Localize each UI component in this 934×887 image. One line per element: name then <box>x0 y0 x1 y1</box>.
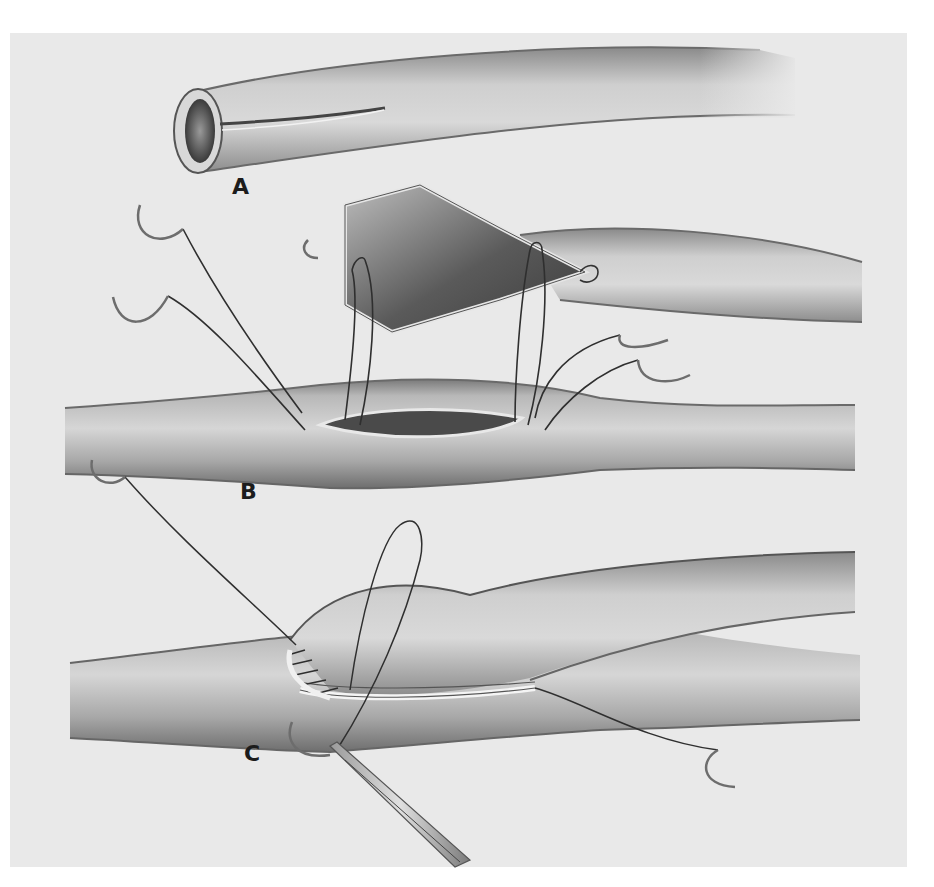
needle-icon <box>638 360 690 381</box>
vessel-lumen <box>185 99 215 163</box>
panel-c-anastomosis <box>70 552 860 752</box>
suture-left <box>125 477 296 645</box>
panel-label-b: B <box>240 481 257 503</box>
panel-b-recipient-vessel <box>65 379 855 488</box>
needle-holder-instrument <box>330 742 470 867</box>
panel-b-graft-vessel <box>345 185 862 332</box>
needle-icon <box>706 750 735 787</box>
panel-label-c: C <box>244 743 260 765</box>
anastomosis-illustration <box>0 0 934 887</box>
needle-icon <box>619 335 668 347</box>
panel-a-graft-vessel <box>174 40 800 173</box>
needle-icon <box>304 240 318 258</box>
needle-icon <box>138 205 183 239</box>
panel-label-a: A <box>232 176 249 198</box>
needle-icon <box>113 296 168 322</box>
